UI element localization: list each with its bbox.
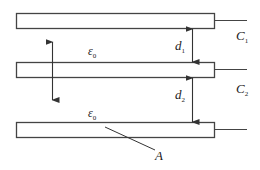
plate-bottom	[17, 123, 215, 138]
label-d2: d2	[175, 87, 186, 104]
label-area: A	[154, 148, 163, 163]
capacitor-diagram: C1 C2 d1 d2 ε0 ε0 A	[0, 0, 260, 170]
plate-middle	[17, 63, 215, 78]
label-epsilon-bottom: ε0	[88, 106, 97, 122]
label-c1: C1	[236, 28, 249, 45]
label-d1: d1	[175, 38, 186, 55]
label-c2: C2	[236, 81, 249, 98]
plate-top	[17, 14, 215, 29]
label-epsilon-top: ε0	[88, 44, 97, 60]
